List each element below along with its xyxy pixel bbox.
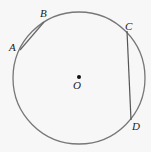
label-c: C <box>125 20 133 32</box>
chord-cd <box>127 31 131 120</box>
label-a: A <box>8 41 16 53</box>
chord-ab <box>20 22 44 50</box>
label-d: D <box>131 120 140 132</box>
label-b: B <box>40 7 47 19</box>
diagram-svg: A B C D O <box>0 0 151 152</box>
label-o: O <box>73 79 81 91</box>
circle-diagram: A B C D O <box>0 0 151 152</box>
